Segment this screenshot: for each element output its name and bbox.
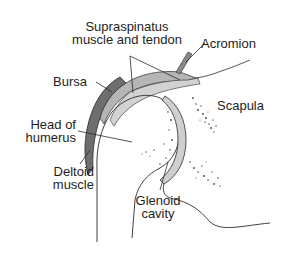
glenoid-stipple (141, 111, 173, 165)
glenoid-cavity-label: Glenoid cavity (128, 194, 188, 220)
deltoid-muscle-label: Deltoid muscle (40, 165, 94, 191)
scapula-label: Scapula (217, 99, 264, 112)
acromion-label: Acromion (201, 37, 256, 50)
head-of-humerus-label: Head of humerus (16, 118, 76, 144)
deltoid-muscle-label-line2: muscle (40, 178, 94, 191)
supraspinatus-label-line2: muscle and tendon (58, 33, 196, 46)
glenoid-cavity-label-line2: cavity (128, 207, 188, 220)
glenoid-cartilage-shape (160, 96, 186, 184)
acromion-shape (176, 52, 192, 74)
head-of-humerus-label-line2: humerus (16, 131, 76, 144)
supraspinatus-label: Supraspinatus muscle and tendon (58, 20, 196, 46)
bursa-label: Bursa (53, 75, 87, 88)
shoulder-diagram: Supraspinatus muscle and tendon Acromion… (0, 0, 282, 257)
acromion-line (196, 60, 250, 78)
scapula-stipple (189, 97, 221, 187)
